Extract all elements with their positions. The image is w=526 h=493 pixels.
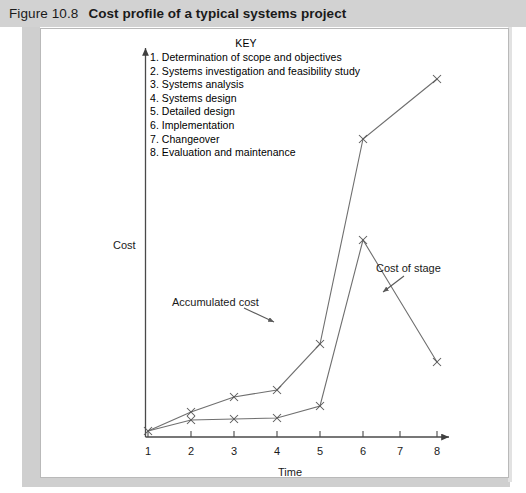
x-tick-label-4: 4 <box>267 445 287 457</box>
y-axis-label: Cost <box>113 239 136 251</box>
page-bottom-band <box>22 478 510 487</box>
key-item-8: 8. Evaluation and maintenance <box>150 146 380 160</box>
key-heading: KEY <box>150 37 342 49</box>
key-item-5: 5. Detailed design <box>150 105 380 119</box>
figure-page: Figure 10.8 Cost profile of a typical sy… <box>0 0 526 493</box>
key-item-6: 6. Implementation <box>150 119 380 133</box>
x-tick-label-6: 6 <box>353 445 373 457</box>
annotation-accumulated-cost: Accumulated cost <box>172 296 259 308</box>
page-title: Cost profile of a typical systems projec… <box>88 6 346 21</box>
x-tick-label-2: 2 <box>181 445 201 457</box>
x-tick-label-3: 3 <box>224 445 244 457</box>
x-tick-label-8: 8 <box>427 445 447 457</box>
x-tick-label-1: 1 <box>138 445 158 457</box>
key-item-4: 4. Systems design <box>150 92 380 106</box>
page-left-band <box>22 27 40 481</box>
figure-title-bar: Figure 10.8 Cost profile of a typical sy… <box>0 0 526 27</box>
figure-number: Figure 10.8 <box>9 6 78 21</box>
key-item-2: 2. Systems investigation and feasibility… <box>150 65 380 79</box>
x-tick-label-7: 7 <box>390 445 410 457</box>
annotation-cost-of-stage: Cost of stage <box>376 262 441 274</box>
key-item-7: 7. Changeover <box>150 133 380 147</box>
key-item-1: 1. Determination of scope and objectives <box>150 51 380 65</box>
x-axis-label: Time <box>278 466 302 478</box>
x-tick-label-5: 5 <box>310 445 330 457</box>
chart-key: KEY 1. Determination of scope and object… <box>150 37 380 160</box>
key-item-3: 3. Systems analysis <box>150 78 380 92</box>
